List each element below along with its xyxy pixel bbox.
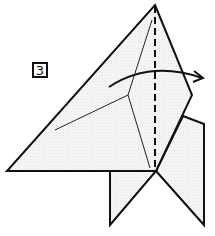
origami-diagram [0, 0, 215, 236]
main-paper-shape [7, 5, 192, 171]
left-back-flap [110, 171, 156, 225]
step-number-badge: 3 [32, 62, 48, 78]
step-number: 3 [36, 64, 44, 77]
